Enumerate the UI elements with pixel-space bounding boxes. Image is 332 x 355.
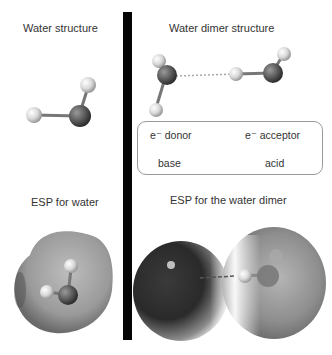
oxygen-atom (263, 63, 283, 83)
water-molecule (26, 77, 96, 127)
hydrogen-atom (64, 259, 78, 273)
panel-divider (123, 12, 132, 340)
base-label: base (158, 157, 181, 169)
esp-dimer-title: ESP for the water dimer (170, 194, 287, 206)
water-dimer-structure-title: Water dimer structure (169, 22, 274, 34)
electron-acceptor-label: e⁻ acceptor (245, 129, 300, 141)
oxygen-atom (257, 265, 279, 287)
acid-label: acid (265, 157, 284, 169)
oxygen-atom (157, 65, 177, 85)
water-structure-title: Water structure (23, 22, 98, 34)
hydrogen-bond-dotted (176, 74, 236, 76)
esp-water-surface (14, 231, 113, 333)
hydrogen-atom (149, 103, 163, 117)
hydrogen-atom (80, 77, 96, 93)
hydrogen-atom (26, 107, 42, 123)
hydrogen-atom (277, 47, 291, 61)
electron-donor-label: e⁻ donor (150, 129, 192, 141)
molecule-graphics (0, 0, 332, 355)
oxygen-atom (69, 105, 91, 127)
esp-dimer-surface (133, 227, 326, 341)
hydrogen-atom (40, 285, 54, 299)
esp-water-title: ESP for water (31, 196, 99, 208)
oxygen-atom (58, 285, 78, 305)
hydrogen-atom (238, 269, 252, 283)
hydrogen-atom (229, 67, 243, 81)
water-dimer-molecule (149, 47, 291, 117)
donor-acceptor-box: e⁻ donor e⁻ acceptor base acid (137, 121, 323, 175)
